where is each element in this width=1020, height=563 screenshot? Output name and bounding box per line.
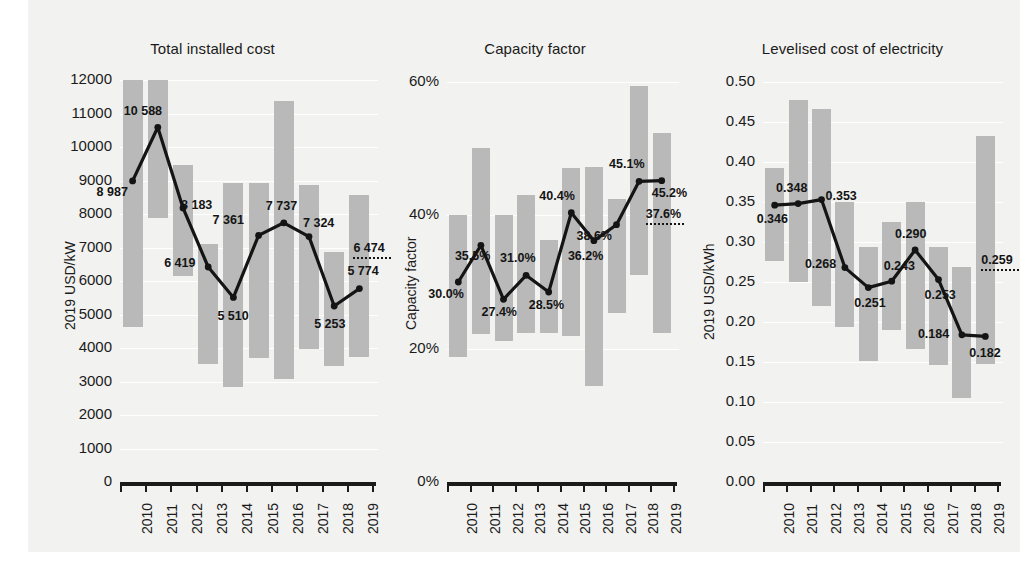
panel-levelised-cost-of-electricity: Levelised cost of electricity 2019 USD/k… [685,0,1020,563]
reference-marker-dotted-line [646,223,684,225]
data-point-label: 0.268 [805,257,836,271]
series-point [818,196,825,203]
x-axis-tick-label: 2018 [645,503,661,534]
reference-marker-label: 0.259 [981,253,1012,267]
data-point-label: 0.348 [776,181,807,195]
series-point [478,242,485,249]
series-point [545,289,552,296]
x-axis-tick-mark [322,486,324,492]
x-axis-tick-mark [880,486,882,492]
series-point [888,278,895,285]
x-axis-tick-label: 2012 [189,503,205,534]
x-axis-tick-mark [763,486,765,492]
x-axis-tick-mark [560,486,562,492]
series-point [959,331,966,338]
series-point [205,264,212,271]
data-point-label: 45.1% [609,157,644,171]
x-axis-tick-label: 2010 [464,503,480,534]
x-axis-tick-mark [170,486,172,492]
data-point-label: 0.290 [895,227,926,241]
x-axis-tick-label: 2012 [510,503,526,534]
x-axis-line [763,482,1001,486]
reference-marker-dotted-line [981,269,1019,271]
x-axis-tick-label: 2011 [164,504,180,534]
x-axis-tick-mark [120,486,122,492]
x-axis-tick-mark [145,486,147,492]
x-axis-line [447,482,677,486]
x-axis-tick-label: 2013 [851,503,867,534]
plot-area-capacity-factor: 0%20%40%60%30.0%35.5%27.4%31.0%28.5%40.4… [385,0,685,563]
series-point [912,247,919,254]
series-point [865,284,872,291]
x-axis-tick-mark [492,486,494,492]
plot-area-levelised-cost: 0.000.050.100.150.200.250.300.350.400.45… [685,0,1020,563]
series-point [658,177,665,184]
x-axis-tick-mark [537,486,539,492]
data-point-label: 6 419 [164,256,195,270]
panel-capacity-factor: Capacity factor Capacity factor 0%20%40%… [385,0,685,563]
weighted-average-line [40,0,385,563]
data-point-label: 0.253 [925,288,956,302]
x-axis-tick-label: 2015 [265,503,281,534]
series-point [982,333,989,340]
x-axis-tick-mark [997,486,999,492]
x-axis-tick-mark [447,486,449,492]
series-point [255,232,262,239]
data-point-label: 0.353 [826,189,857,203]
x-axis-tick-label: 2014 [874,503,890,534]
data-point-label: 7 324 [303,216,334,230]
series-point [455,279,462,286]
figure-root: Total installed cost 2019 USD/kW 0100020… [0,0,1020,563]
data-point-label: 27.4% [482,305,517,319]
x-axis-tick-mark [833,486,835,492]
x-axis-tick-label: 2015 [577,503,593,534]
x-axis-tick-mark [857,486,859,492]
data-point-label: 0.251 [854,296,885,310]
x-axis-tick-mark [927,486,929,492]
data-point-label: 36.2% [568,249,603,263]
x-axis-tick-label: 2016 [921,503,937,534]
data-point-label: 40.4% [539,189,574,203]
series-point [230,294,237,301]
panel-total-installed-cost: Total installed cost 2019 USD/kW 0100020… [40,0,385,563]
data-point-label: 5 253 [314,317,345,331]
data-point-label: 35.5% [455,249,490,263]
x-axis-tick-label: 2019 [991,503,1007,534]
x-axis-tick-label: 2010 [139,503,155,534]
data-point-label: 30.0% [428,287,463,301]
data-point-label: 28.5% [529,298,564,312]
data-point-label: 31.0% [500,251,535,265]
x-axis-tick-label: 2011 [804,504,820,534]
weighted-average-line [685,0,1020,563]
x-axis-tick-mark [296,486,298,492]
x-axis-tick-mark [810,486,812,492]
reference-marker-label: 6 474 [353,241,384,255]
x-axis-tick-mark [271,486,273,492]
x-axis-tick-label: 2017 [945,503,961,534]
x-axis-tick-mark [786,486,788,492]
x-axis-tick-mark [974,486,976,492]
x-axis-tick-label: 2018 [968,503,984,534]
x-axis-tick-mark [950,486,952,492]
x-axis-tick-label: 2019 [668,503,684,534]
weighted-average-line [385,0,685,563]
data-point-label: 0.346 [757,212,788,226]
data-point-label: 10 588 [124,104,162,118]
x-axis-tick-mark [221,486,223,492]
x-axis-tick-label: 2016 [600,503,616,534]
series-point [935,276,942,283]
series-point [568,209,575,216]
series-point [306,233,313,240]
x-axis-tick-mark [628,486,630,492]
data-point-label: 8 183 [181,198,212,212]
x-axis-tick-mark [470,486,472,492]
series-point [842,264,849,271]
series-point [331,303,338,310]
x-axis-tick-label: 2010 [781,503,797,534]
series-point [356,285,363,292]
series-point [795,200,802,207]
series-point [129,178,136,185]
x-axis-tick-label: 2016 [290,503,306,534]
x-axis-tick-label: 2018 [340,503,356,534]
x-axis-tick-label: 2017 [315,503,331,534]
